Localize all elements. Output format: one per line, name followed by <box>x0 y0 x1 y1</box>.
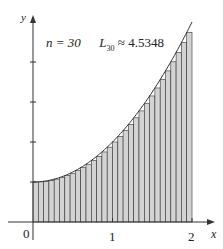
riemann-rectangle <box>176 52 181 222</box>
origin-label: 0 <box>23 227 30 240</box>
riemann-rectangle <box>97 156 102 222</box>
riemann-rectangle <box>75 171 80 222</box>
riemann-rectangle <box>107 147 112 222</box>
riemann-rectangle <box>49 180 54 222</box>
sum-subscript: 30 <box>107 44 115 53</box>
x-tick-label-2: 2 <box>188 230 195 243</box>
riemann-rectangle <box>86 164 91 222</box>
riemann-rectangles <box>33 32 192 222</box>
riemann-rectangle <box>181 43 186 222</box>
y-axis-label: y <box>21 12 26 23</box>
riemann-rectangle <box>166 71 171 222</box>
riemann-rectangle <box>70 173 75 222</box>
riemann-rectangle <box>150 96 155 222</box>
x-axis-arrow-icon <box>207 219 215 225</box>
riemann-rectangle <box>91 160 96 222</box>
riemann-rectangle <box>81 168 86 222</box>
riemann-rectangle <box>118 136 123 222</box>
riemann-rectangle <box>33 182 38 222</box>
annotation: n = 30 L30 ≈ 4.5348 <box>46 36 164 53</box>
x-tick-label-1: 1 <box>109 230 116 243</box>
riemann-rectangle <box>134 118 139 222</box>
riemann-rectangle <box>171 62 176 222</box>
riemann-rectangle <box>144 104 149 222</box>
riemann-rectangle <box>38 182 43 222</box>
riemann-rectangle <box>102 152 107 222</box>
sum-value: ≈ 4.5348 <box>118 35 164 50</box>
riemann-rectangle <box>54 179 59 222</box>
riemann-rectangle <box>128 124 133 222</box>
y-axis-arrow-icon <box>30 15 36 23</box>
riemann-rectangle <box>65 176 70 222</box>
n-label: n = 30 <box>46 35 81 50</box>
riemann-rectangle <box>139 111 144 222</box>
riemann-rectangle <box>187 32 192 222</box>
riemann-rectangle <box>60 178 65 222</box>
sum-symbol: L <box>99 35 106 50</box>
riemann-rectangle <box>160 80 165 222</box>
riemann-rectangle <box>113 142 118 222</box>
riemann-rectangle <box>123 131 128 222</box>
riemann-rectangle <box>155 88 160 222</box>
riemann-rectangle <box>44 181 49 222</box>
x-axis-label: x <box>211 228 216 240</box>
